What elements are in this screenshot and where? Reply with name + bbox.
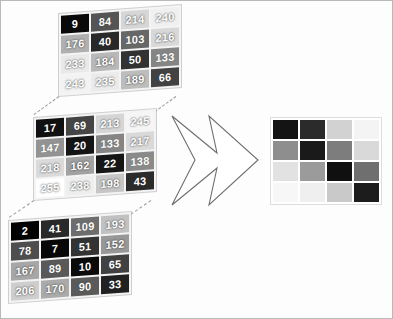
channel-matrix-top: 9842142401764010321623318450133243235189… [59, 5, 181, 96]
matrix-cell: 43 [126, 171, 154, 191]
dash-top-left [34, 96, 60, 115]
matrix-cell: 147 [36, 138, 64, 158]
matrix-cell: 103 [121, 29, 149, 49]
matrix-cell: 217 [126, 131, 154, 151]
matrix-cell: 7 [41, 239, 69, 259]
matrix-cell: 133 [96, 133, 124, 153]
matrix-cell: 133 [151, 47, 179, 67]
matrix-cell: 84 [91, 12, 119, 32]
matrix-cell: 233 [61, 54, 89, 74]
matrix-cell: 213 [96, 113, 124, 133]
matrix-cell: 9 [61, 14, 89, 34]
matrix-cell: 243 [61, 74, 89, 94]
result-cell [273, 120, 298, 139]
matrix-cell: 240 [151, 7, 179, 27]
figure-canvas: 9842142401764010321623318450133243235189… [0, 0, 393, 319]
result-cell [273, 141, 298, 160]
result-cell [327, 120, 352, 139]
result-cell [354, 183, 379, 202]
matrix-cell: 167 [11, 261, 39, 281]
matrix-cell: 41 [41, 219, 69, 239]
result-cell [300, 183, 325, 202]
result-cell [273, 183, 298, 202]
result-cell [300, 141, 325, 160]
matrix-cell: 198 [96, 173, 124, 193]
double-chevron-arrow-icon [169, 113, 261, 208]
matrix-cell: 51 [71, 236, 99, 256]
matrix-cell: 69 [66, 116, 94, 136]
matrix-cell: 40 [91, 32, 119, 52]
matrix-cell: 170 [41, 279, 69, 299]
matrix-cell: 109 [71, 216, 99, 236]
result-cell [327, 183, 352, 202]
matrix-cell: 206 [11, 281, 39, 301]
dash-mid-left [9, 200, 35, 218]
result-cell [354, 141, 379, 160]
matrix-cell: 33 [101, 274, 129, 294]
result-row [273, 141, 379, 160]
matrix-cell: 184 [91, 52, 119, 72]
matrix-cell: 17 [36, 118, 64, 138]
matrix-cell: 65 [101, 254, 129, 274]
result-cell [273, 162, 298, 181]
matrix-cell: 20 [66, 136, 94, 156]
result-cell [300, 120, 325, 139]
matrix-cell: 193 [101, 214, 129, 234]
matrix-cell: 66 [151, 67, 179, 87]
result-cell [300, 162, 325, 181]
result-row [273, 120, 379, 139]
matrix-cell: 189 [121, 69, 149, 89]
matrix-cell: 50 [121, 49, 149, 69]
matrix-cell: 218 [36, 158, 64, 178]
matrix-cell: 176 [61, 34, 89, 54]
arrow-outline [172, 116, 258, 205]
matrix-cell: 78 [11, 241, 39, 261]
result-row [273, 162, 379, 181]
result-cell [354, 120, 379, 139]
matrix-cell: 238 [66, 176, 94, 196]
matrix-cell: 152 [101, 234, 129, 254]
matrix-cell: 255 [36, 178, 64, 198]
channel-matrix-bottom: 241109193787511521678910652061709033 [9, 212, 131, 303]
matrix-cell: 214 [121, 9, 149, 29]
matrix-cell: 162 [66, 156, 94, 176]
result-image-grid [271, 118, 381, 204]
matrix-cell: 245 [126, 111, 154, 131]
matrix-cell: 90 [71, 276, 99, 296]
result-cell [354, 162, 379, 181]
matrix-cell: 2 [11, 221, 39, 241]
channel-matrix-middle: 1769213245147201332172181622213825523819… [34, 109, 156, 200]
matrix-cell: 216 [151, 27, 179, 47]
matrix-cell: 89 [41, 259, 69, 279]
result-row [273, 183, 379, 202]
result-cell [327, 141, 352, 160]
matrix-cell: 10 [71, 256, 99, 276]
matrix-cell: 138 [126, 151, 154, 171]
result-cell [327, 162, 352, 181]
matrix-cell: 235 [91, 72, 119, 92]
matrix-cell: 22 [96, 153, 124, 173]
